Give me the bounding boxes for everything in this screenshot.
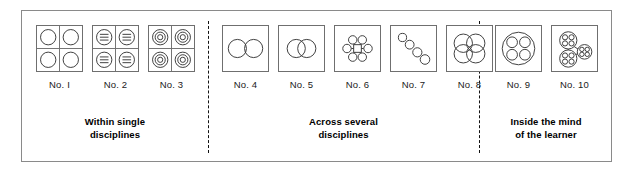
caption-line-1: Inside the mind [479, 115, 613, 128]
caption-line-2: of the learner [479, 128, 613, 141]
diagram-item-no-3[interactable]: No. 3 [148, 25, 195, 90]
group-caption: Across several disciplines [208, 115, 479, 141]
big-circle-four-inner-circles-icon [495, 25, 542, 72]
group-across-several-disciplines: No. 4 No. 5 [208, 11, 479, 163]
group-caption: Inside the mind of the learner [479, 115, 613, 141]
spacer [83, 25, 92, 90]
spacer [381, 25, 390, 90]
diagram-label: No. 2 [104, 79, 128, 90]
diagram-label: No. 5 [290, 79, 314, 90]
diagram-label: No. 8 [458, 79, 482, 90]
three-linked-clusters-icon [551, 25, 598, 72]
diagram-label: No. 3 [160, 79, 184, 90]
diagram-item-no-4[interactable]: No. 4 [222, 25, 269, 90]
diagram-label: No. I [49, 79, 70, 90]
diagram-item-no-2[interactable]: No. 2 [92, 25, 139, 90]
diagram-item-no-7[interactable]: No. 7 [390, 25, 437, 90]
diagram-item-no-9[interactable]: No. 9 [495, 25, 542, 90]
diagonal-circle-chain-icon [390, 25, 437, 72]
diagram-label: No. 7 [402, 79, 426, 90]
caption-line-1: Across several [208, 115, 479, 128]
diagram-item-no-10[interactable]: No. 10 [551, 25, 598, 90]
diagram-item-no-6[interactable]: No. 6 [334, 25, 381, 90]
four-quadrant-lined-circles-icon [92, 25, 139, 72]
diagram-item-no-5[interactable]: No. 5 [278, 25, 325, 90]
caption-line-2: disciplines [208, 128, 479, 141]
diagram-label: No. 4 [234, 79, 258, 90]
four-quadrant-plain-circles-icon [36, 25, 83, 72]
diagram-label: No. 6 [346, 79, 370, 90]
group-inside-the-mind-of-the-learner: No. 9 [479, 11, 613, 163]
group-caption: Within single disciplines [22, 115, 208, 141]
two-tangent-circles-icon [222, 25, 269, 72]
figure-frame: No. I [21, 10, 612, 162]
square-hub-six-circles-icon [334, 25, 381, 72]
spacer [437, 25, 446, 90]
two-overlapping-circles-icon [278, 25, 325, 72]
spacer [139, 25, 148, 90]
diagram-label: No. 9 [507, 79, 531, 90]
spacer [269, 25, 278, 90]
caption-line-2: disciplines [22, 128, 208, 141]
spacer [325, 25, 334, 90]
diagram-item-no-1[interactable]: No. I [36, 25, 83, 90]
group-within-single-disciplines: No. I [22, 11, 208, 163]
spacer [542, 25, 551, 90]
four-quadrant-concentric-circles-icon [148, 25, 195, 72]
caption-line-1: Within single [22, 115, 208, 128]
diagram-label: No. 10 [560, 79, 589, 90]
